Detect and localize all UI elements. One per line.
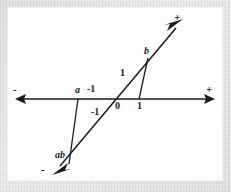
figure-container: - + + - a -1 0 1 -1 1 b ab [0, 0, 231, 192]
axis-negative-sign: - [13, 84, 17, 95]
slanted-ray-group [52, 19, 183, 175]
label-negative-one-axis: -1 [87, 84, 95, 94]
transversal-a-to-ab [69, 99, 78, 164]
label-point-b: b [144, 46, 149, 56]
label-origin: 0 [115, 101, 120, 111]
transversal-one-to-b [139, 58, 148, 99]
label-point-a: a [75, 85, 80, 95]
label-negative-one-ray: -1 [91, 107, 99, 117]
slanted-ray [60, 28, 176, 166]
ray-positive-sign: + [174, 12, 180, 23]
axis-positive-sign: + [206, 84, 212, 95]
diagram-canvas [0, 0, 231, 192]
label-unit-one: 1 [137, 101, 142, 111]
label-one-on-ray: 1 [120, 68, 125, 78]
label-point-ab: ab [55, 150, 65, 160]
ray-negative-sign: - [41, 164, 45, 175]
